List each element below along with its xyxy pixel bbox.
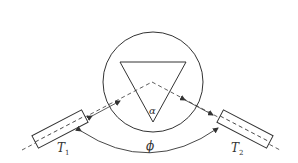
- label-t2-subscript: 2: [239, 149, 243, 157]
- label-phi: ϕ: [146, 139, 154, 153]
- prism-goniometer-diagram: α ϕ T 1 T 2: [0, 0, 298, 163]
- beam-arrow-left: [92, 101, 120, 116]
- telescope-t2: [217, 110, 273, 148]
- label-alpha: α: [149, 105, 156, 116]
- prism-table-circle: [103, 32, 203, 132]
- label-t1-subscript: 1: [65, 149, 69, 157]
